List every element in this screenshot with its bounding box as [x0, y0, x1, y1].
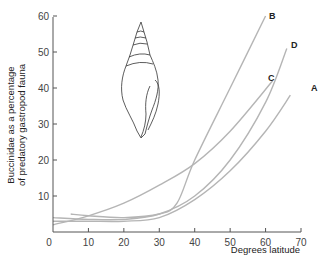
x-tick-label: 30: [154, 237, 166, 248]
x-tick-label: 0: [46, 237, 52, 248]
curve-a: [53, 95, 290, 221]
y-axis-label-line2: of predatory gastropod fauna: [16, 63, 27, 186]
y-tick-label: 50: [38, 47, 50, 58]
curve-label-d: D: [291, 40, 298, 50]
curves: [53, 16, 290, 225]
x-axis-label: Degrees latitude: [231, 244, 300, 255]
x-tick-label: 10: [83, 237, 95, 248]
curve-label-c: C: [268, 73, 275, 83]
y-ticks: 102030405060: [38, 11, 57, 202]
y-tick-label: 20: [38, 155, 50, 166]
curve-b: [71, 16, 266, 218]
line-chart: 102030405060 010203040506070 Degrees lat…: [0, 0, 329, 263]
y-tick-label: 60: [38, 11, 50, 22]
x-tick-label: 20: [118, 237, 130, 248]
curve-label-b: B: [269, 11, 276, 21]
y-tick-label: 40: [38, 83, 50, 94]
curve-c: [53, 81, 273, 225]
y-tick-label: 30: [38, 119, 50, 130]
y-axis-label: Buccinidae as a percentage of predatory …: [5, 63, 27, 186]
y-axis-label-line1: Buccinidae as a percentage: [5, 66, 16, 183]
y-tick-label: 10: [38, 191, 50, 202]
x-tick-label: 40: [189, 237, 201, 248]
curve-d: [53, 48, 287, 219]
chart-figure: 102030405060 010203040506070 Degrees lat…: [0, 0, 329, 263]
curve-label-a: A: [311, 83, 318, 93]
shell-illustration: [122, 22, 160, 138]
